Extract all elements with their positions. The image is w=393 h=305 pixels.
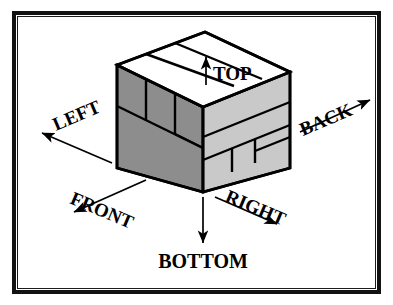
left-arrow [42,133,112,163]
right-label: RIGHT [222,185,289,229]
back-label: BACK [296,99,355,140]
bottom-label: BOTTOM [158,250,248,272]
front-label: FRONT [67,187,137,232]
diagram-page: TOP BOTTOM LEFT BACK FRONT RIGHT [0,0,393,305]
left-label: LEFT [49,96,103,135]
block-orientation-diagram: TOP BOTTOM LEFT BACK FRONT RIGHT [0,0,393,305]
cube-group [117,32,290,192]
top-label: TOP [213,63,252,84]
